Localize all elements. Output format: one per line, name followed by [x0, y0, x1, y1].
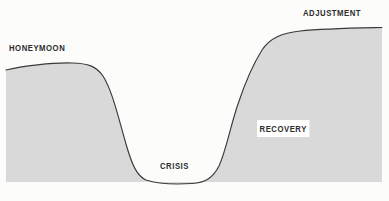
culture-shock-curve-figure: Honeymoon Crisis Recovery Adjustment [0, 0, 389, 201]
stage-label-adjustment: Adjustment [303, 6, 361, 19]
stage-label-honeymoon: Honeymoon [9, 41, 65, 54]
curve-svg [0, 0, 389, 201]
stage-label-recovery: Recovery [257, 120, 309, 137]
stage-label-crisis: Crisis [160, 159, 189, 172]
